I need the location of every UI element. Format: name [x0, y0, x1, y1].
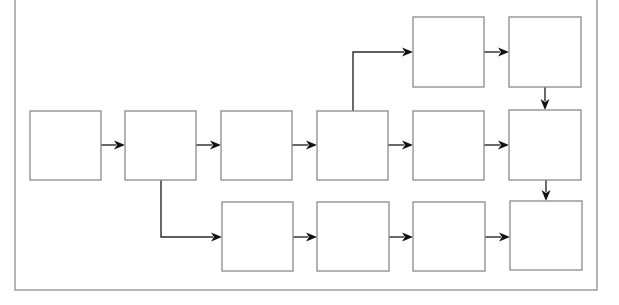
process-box [509, 17, 581, 87]
edge-b1-to-b2 [293, 233, 317, 242]
node-m5 [413, 111, 484, 180]
connector-line [161, 180, 213, 237]
node-m2 [125, 111, 196, 180]
process-box [221, 111, 292, 180]
node-t2 [509, 17, 581, 87]
node-m3 [221, 111, 292, 180]
process-box [413, 17, 484, 87]
edge-m4-to-t1 [353, 48, 413, 112]
process-box [509, 110, 581, 180]
edge-m6-to-b4 [542, 180, 551, 201]
edge-t1-to-t2 [484, 48, 509, 57]
edge-m2-to-m3 [196, 141, 221, 150]
connector-line [353, 52, 404, 111]
node-m1 [30, 111, 101, 180]
node-b2 [317, 202, 389, 271]
edge-b2-to-b3 [389, 233, 413, 242]
node-b3 [413, 202, 485, 271]
process-box [30, 111, 101, 180]
edge-m5-to-m6 [484, 141, 509, 150]
edge-m2-to-b1 [161, 180, 222, 242]
flowchart-diagram [0, 0, 619, 305]
node-m4 [317, 111, 388, 180]
process-box [413, 111, 484, 180]
edge-m1-to-m2 [101, 141, 125, 150]
process-box [317, 111, 388, 180]
process-box [413, 202, 485, 271]
node-b4 [510, 201, 582, 270]
node-b1 [222, 202, 293, 271]
process-box [125, 111, 196, 180]
node-m6 [509, 110, 581, 180]
edge-b3-to-b4 [485, 233, 510, 242]
process-box [317, 202, 389, 271]
edge-t2-to-m6 [541, 87, 550, 110]
process-box [222, 202, 293, 271]
node-t1 [413, 17, 484, 87]
edge-m3-to-m4 [292, 141, 317, 150]
edge-m4-to-m5 [388, 141, 413, 150]
process-box [510, 201, 582, 270]
